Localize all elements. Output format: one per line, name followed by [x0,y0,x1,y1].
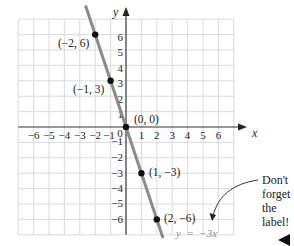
x-axis-label: x [251,126,258,140]
point-label: (0, 0) [134,113,159,126]
y-tick: −2 [111,151,123,163]
point-neg1-3 [107,78,113,84]
coordinate-plane: x y −6 −5 −4 −3 −2 −1 0 1 2 3 4 5 6 6 5 … [0,0,294,246]
x-tick: 5 [200,129,206,141]
point-neg2-6 [92,31,98,37]
point-2-neg6 [154,216,160,222]
x-tick: −4 [59,129,71,141]
note-line: forget [262,187,291,201]
point-label: (−2, 6) [58,37,90,50]
annotation-arrow [213,180,258,216]
x-tick: −6 [28,129,40,141]
y-tick: −1 [111,135,123,147]
y-axis-label: y [112,5,119,19]
x-tick: −3 [74,129,86,141]
x-axis-arrow-icon [238,124,247,131]
axes [18,14,240,235]
left-triangle-icon [278,234,290,246]
point-label: (1, −3) [149,166,181,179]
note-line: the [262,201,277,215]
y-tick: 5 [118,46,124,58]
x-tick: 6 [216,129,222,141]
x-tick: −5 [43,129,55,141]
x-tick: 2 [154,129,160,141]
y-tick: 3 [118,77,124,89]
y-tick: 4 [118,62,124,74]
y-tick: −4 [111,182,123,194]
equation-label: y = −3x [175,227,217,239]
point-0-0 [123,124,129,130]
point-label: (−1, 3) [73,83,105,96]
note-line: Don't [262,173,289,187]
y-tick: −5 [111,197,123,209]
y-tick: −6 [111,213,123,225]
annotation-note: Don't forget the label! [262,173,291,229]
y-tick: −3 [111,167,123,179]
point-1-neg3 [138,170,144,176]
x-tick: 4 [185,129,191,141]
point-label: (2, −6) [164,212,196,225]
y-tick: 6 [118,31,124,43]
y-axis-arrow-icon [123,7,130,16]
x-tick: 1 [139,129,145,141]
note-line: label! [262,215,289,229]
x-tick: −2 [89,129,101,141]
x-tick: 3 [169,129,175,141]
